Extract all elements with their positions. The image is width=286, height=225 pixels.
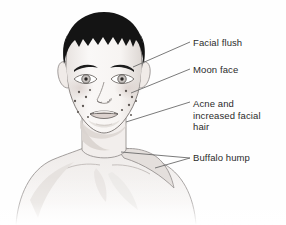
medical-illustration-figure: Facial flush Moon face Acne and increase… — [0, 0, 286, 225]
bottom-fade — [0, 176, 286, 225]
label-facial-flush: Facial flush — [193, 37, 242, 49]
acne-leader — [126, 102, 190, 122]
label-acne-and-increased-facial-hair: Acne and increased facial hair — [193, 98, 261, 133]
head-group — [58, 12, 150, 133]
label-buffalo-hump: Buffalo hump — [193, 152, 250, 164]
label-moon-face: Moon face — [193, 64, 238, 76]
